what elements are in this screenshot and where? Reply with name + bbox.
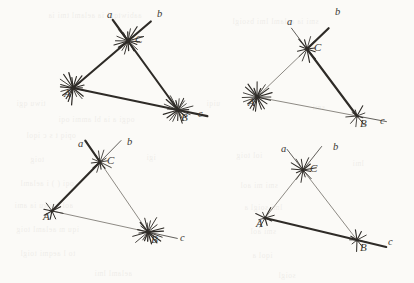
- vertex-burst-ray: [346, 116, 357, 117]
- vertex-label-A: A: [42, 210, 50, 222]
- ray-label-a: a: [107, 9, 112, 20]
- ray-label-c: c: [388, 236, 393, 247]
- vertex-label-B: B: [151, 233, 158, 245]
- side-AB: [52, 211, 148, 232]
- side-BC: [100, 162, 148, 232]
- side-CA: [52, 162, 100, 211]
- vertex-node: [99, 161, 102, 164]
- vertex-node: [147, 231, 150, 234]
- side-BC: [128, 41, 178, 110]
- side-BC: [307, 49, 357, 116]
- vertex-label-C: C: [135, 33, 143, 45]
- vertex-label-A: A: [255, 217, 263, 229]
- vertex-label-B: B: [360, 117, 367, 129]
- vertex-label-B: B: [360, 241, 367, 253]
- panel-top-left: ABCabc: [60, 8, 207, 123]
- vertex-burst-B: [163, 96, 193, 123]
- vertex-label-C: C: [314, 41, 322, 53]
- side-AB: [265, 218, 357, 240]
- vertex-node: [72, 87, 75, 90]
- side-CA: [265, 170, 303, 218]
- vertex-node: [256, 96, 259, 99]
- vertex-label-C: C: [107, 154, 115, 166]
- ray-label-a: a: [281, 143, 286, 154]
- vertex-label-A: A: [247, 96, 255, 108]
- side-CA: [73, 41, 128, 88]
- vertex-burst-C: [297, 37, 315, 63]
- ray-label-b: b: [333, 141, 338, 152]
- vertex-node: [177, 109, 180, 112]
- vertex-label-A: A: [63, 87, 71, 99]
- ray-label-c: c: [198, 108, 203, 119]
- ray-label-c: c: [380, 115, 385, 126]
- vertex-node: [306, 48, 309, 51]
- panel-top-right: ABCabc: [242, 6, 386, 129]
- vertex-burst-ray: [52, 211, 63, 213]
- vertex-label-C: C: [310, 162, 318, 174]
- vertex-node: [302, 169, 305, 172]
- vertex-node: [356, 239, 359, 242]
- ray-label-a: a: [78, 138, 83, 149]
- ray-label-b: b: [127, 136, 132, 147]
- panel-bottom-left: ABCabc: [42, 136, 185, 245]
- ray-label-b: b: [157, 8, 162, 19]
- vertex-node: [51, 210, 54, 213]
- ray-label-a: a: [287, 16, 292, 27]
- panel-bottom-right: ABCabc: [255, 141, 393, 253]
- vertex-node: [127, 40, 130, 43]
- vertex-label-B: B: [181, 111, 188, 123]
- vertex-burst-A: [242, 82, 272, 111]
- side-AB: [257, 97, 357, 116]
- vertex-node: [356, 115, 359, 118]
- vertex-node: [264, 217, 267, 220]
- ray-label-b: b: [335, 6, 340, 17]
- vertex-burst-B: [133, 218, 164, 244]
- ray-label-c: c: [180, 232, 185, 243]
